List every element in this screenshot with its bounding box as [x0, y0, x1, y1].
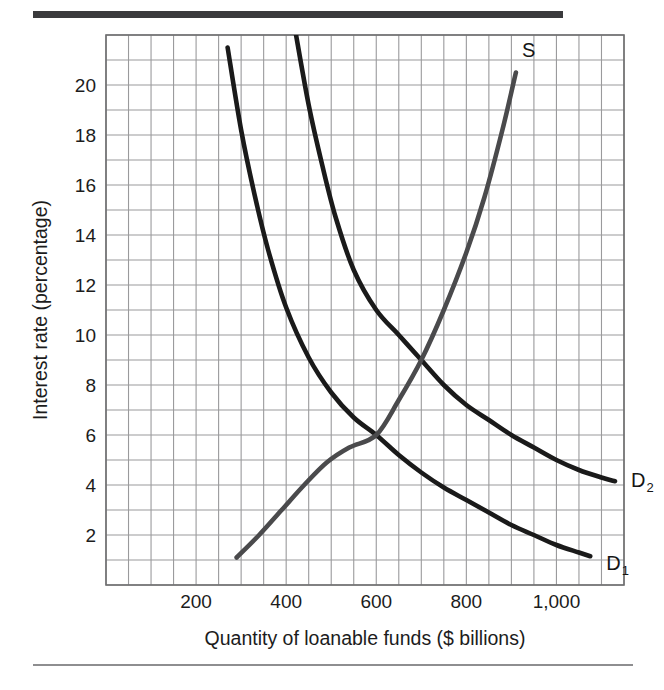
y-axis-title: Interest rate (percentage): [29, 200, 51, 420]
curve-label-s: S: [522, 39, 535, 61]
x-tick-label: 1,000: [533, 591, 581, 612]
x-tick-label: 800: [450, 591, 482, 612]
x-axis-tick-labels: 2004006008001,000: [180, 591, 580, 612]
curve-label-letter: D: [606, 552, 620, 574]
y-tick-label: 8: [85, 375, 96, 396]
y-tick-label: 20: [75, 75, 96, 96]
y-tick-label: 10: [75, 325, 96, 346]
bottom-rule: [33, 664, 633, 666]
curve-d1: [228, 48, 591, 557]
curve-label-letter: S: [522, 39, 535, 61]
curve-labels: D1D2S: [522, 39, 654, 579]
curve-d2: [295, 30, 615, 481]
curve-label-subscript: 2: [646, 480, 653, 495]
figure-container: 2004006008001,000 2468101214161820 D1D2S…: [0, 0, 664, 690]
y-tick-label: 12: [75, 275, 96, 296]
x-tick-label: 200: [180, 591, 212, 612]
curve-label-subscript: 1: [622, 563, 629, 578]
grid-minor-lines: [106, 35, 624, 585]
x-tick-label: 400: [270, 591, 302, 612]
y-axis-tick-labels: 2468101214161820: [75, 75, 97, 546]
curve-label-d2: D2: [631, 469, 654, 495]
curve-label-d1: D1: [606, 552, 629, 578]
loanable-funds-chart: 2004006008001,000 2468101214161820 D1D2S…: [0, 0, 664, 660]
y-tick-label: 4: [85, 475, 96, 496]
y-tick-label: 14: [75, 225, 97, 246]
curve-label-letter: D: [631, 469, 645, 491]
y-tick-label: 18: [75, 125, 96, 146]
x-axis-title: Quantity of loanable funds ($ billions): [205, 627, 526, 649]
y-tick-label: 6: [85, 425, 96, 446]
y-tick-label: 16: [75, 175, 96, 196]
y-tick-label: 2: [85, 525, 96, 546]
plot-wrapper: 2004006008001,000 2468101214161820 D1D2S…: [0, 0, 664, 660]
x-tick-label: 600: [360, 591, 392, 612]
